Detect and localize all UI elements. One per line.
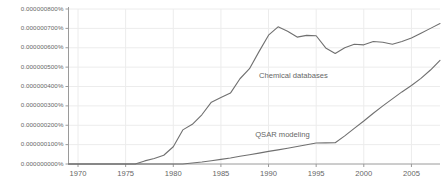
series-line: [69, 60, 441, 164]
y-tick-label: 0.000000700%: [21, 25, 64, 31]
y-tick-label: 0.000000500%: [21, 64, 64, 70]
y-tick-label: 0.000000400%: [21, 83, 64, 89]
series-label-qsar-modeling[interactable]: QSAR modeling: [255, 131, 309, 139]
series-label-chemical-databases[interactable]: Chemical databases: [259, 72, 328, 80]
axis-lines: [69, 7, 441, 164]
y-tick-label: 0.000000600%: [21, 44, 64, 50]
axis-tick-marks: [66, 9, 412, 167]
y-tick-label: 0.000000300%: [21, 102, 64, 108]
series-line: [69, 24, 441, 164]
chart-canvas: [0, 0, 442, 186]
ngram-chart: 0.000000000%0.000000100%0.000000200%0.00…: [0, 0, 442, 186]
x-tick-label: 2005: [381, 170, 441, 178]
y-tick-label: 0.000000000%: [21, 161, 64, 167]
y-tick-label: 0.000000800%: [21, 6, 64, 12]
y-tick-label: 0.000000100%: [21, 141, 64, 147]
horizontal-gridlines: [69, 9, 441, 145]
y-tick-label: 0.000000200%: [21, 122, 64, 128]
data-series-lines: [69, 24, 441, 164]
